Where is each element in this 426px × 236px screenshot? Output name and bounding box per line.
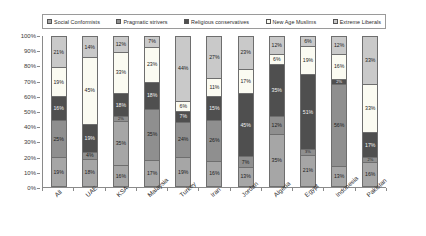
x-axis-tickmark [105, 188, 106, 191]
bar-segment-label: 3% [305, 150, 311, 154]
stacked-bar[interactable]: 27%11%15%26%16% [206, 36, 222, 187]
bar-segment-label: 13% [334, 174, 344, 179]
bar-segment[interactable]: 4% [83, 153, 97, 160]
bar-segment[interactable]: 33% [363, 37, 377, 85]
bar-column[interactable]: 33%33%17%2%16% [357, 36, 383, 187]
bar-segment[interactable]: 19% [52, 158, 66, 186]
bar-column[interactable]: 12%16%2%56%13% [326, 36, 352, 187]
bar-segment[interactable]: 24% [176, 123, 190, 159]
bar-segment[interactable]: 12% [270, 37, 284, 55]
bar-column[interactable]: 12%33%18%2%35%16% [108, 36, 134, 187]
bar-segment[interactable]: 17% [239, 70, 253, 94]
stacked-bar[interactable]: 23%17%45%7%13% [238, 36, 254, 187]
bar-segment[interactable]: 6% [270, 55, 284, 65]
bar-segment-label: 16% [116, 174, 126, 179]
bar-segment[interactable]: 19% [52, 68, 66, 97]
bar-segment[interactable]: 11% [207, 79, 221, 97]
bar-segment[interactable]: 12% [114, 37, 128, 53]
bar-segment-label: 19% [303, 58, 313, 63]
bar-segment[interactable]: 18% [114, 94, 128, 117]
bar-segment-label: 17% [147, 171, 157, 176]
bar-segment[interactable]: 27% [207, 37, 221, 79]
bar-segment[interactable]: 44% [176, 37, 190, 102]
bar-segment[interactable]: 16% [207, 162, 221, 186]
bar-segment[interactable]: 19% [83, 125, 97, 154]
bar-column[interactable]: 23%17%45%7%13% [233, 36, 259, 187]
bar-segment-label: 2% [336, 80, 342, 84]
bar-segment[interactable]: 23% [145, 48, 159, 82]
bar-segment[interactable]: 33% [363, 85, 377, 133]
bar-segment-label: 6% [273, 57, 281, 62]
y-axis-tickmark [37, 82, 40, 83]
bar-column[interactable]: 27%11%15%26%16% [201, 36, 227, 187]
bar-segment[interactable]: 6% [301, 37, 315, 47]
bar-segment[interactable]: 12% [332, 37, 346, 55]
bar-segment[interactable]: 16% [332, 55, 346, 79]
bar-segment-label: 25% [53, 137, 63, 142]
legend-item[interactable]: New Age Muslims [266, 19, 317, 25]
bar-segment-label: 18% [85, 170, 95, 175]
stacked-bar[interactable]: 7%23%18%35%17% [144, 36, 160, 187]
y-axis-tick-label: 30% [24, 139, 36, 145]
bar-segment-label: 24% [178, 137, 188, 142]
bar-segment-label: 12% [272, 43, 282, 48]
bar-segment[interactable]: 12% [270, 117, 284, 135]
bar-segment[interactable]: 45% [83, 58, 97, 124]
stacked-bar[interactable]: 21%19%16%25%19% [51, 36, 67, 187]
x-axis-tickmark [355, 188, 356, 191]
bar-segment[interactable]: 33% [114, 53, 128, 95]
bar-column[interactable]: 14%45%19%4%18% [77, 36, 103, 187]
bar-column[interactable]: 21%19%16%25%19% [46, 36, 72, 187]
bar-segment[interactable]: 17% [363, 133, 377, 158]
stacked-bar[interactable]: 12%6%35%12%35% [269, 36, 285, 187]
y-axis-tick-label: 50% [24, 109, 36, 115]
bar-segment-label: 16% [365, 172, 375, 177]
legend-item[interactable]: Extreme Liberals [333, 19, 381, 25]
bar-segment[interactable]: 51% [301, 75, 315, 150]
bar-column[interactable]: 12%6%35%12%35% [264, 36, 290, 187]
bar-segment[interactable]: 16% [114, 166, 128, 186]
legend-item[interactable]: Religious conservatives [184, 19, 249, 25]
bar-column[interactable]: 44%6%7%24%19% [170, 36, 196, 187]
stacked-bar[interactable]: 6%19%51%3%21% [300, 36, 316, 187]
bar-segment-label: 2% [118, 117, 124, 121]
bar-segment-label: 12% [272, 123, 282, 128]
bar-segment[interactable]: 6% [176, 102, 190, 112]
bar-segment[interactable]: 21% [301, 156, 315, 186]
bar-segment[interactable]: 18% [83, 160, 97, 186]
stacked-bar[interactable]: 12%33%18%2%35%16% [113, 36, 129, 187]
bar-segment[interactable]: 19% [301, 47, 315, 76]
y-axis-tickmark [37, 66, 40, 67]
y-axis-tickmark [37, 97, 40, 98]
bar-segment[interactable]: 45% [239, 94, 253, 157]
stacked-bar[interactable]: 12%16%2%56%13% [331, 36, 347, 187]
legend-item[interactable]: Social Conformists [47, 19, 100, 25]
bar-segment[interactable]: 35% [270, 135, 284, 186]
bar-segment[interactable]: 16% [52, 97, 66, 121]
bar-segment[interactable]: 26% [207, 121, 221, 162]
bar-segment[interactable]: 18% [145, 83, 159, 110]
bar-segment[interactable]: 19% [176, 158, 190, 186]
stacked-bar[interactable]: 33%33%17%2%16% [362, 36, 378, 187]
legend-swatch-icon [266, 19, 271, 24]
bar-segment[interactable]: 23% [239, 37, 253, 70]
bar-segment-label: 45% [85, 88, 95, 93]
bar-column[interactable]: 6%19%51%3%21% [295, 36, 321, 187]
bar-segment[interactable]: 14% [83, 37, 97, 58]
stacked-bar[interactable]: 14%45%19%4%18% [82, 36, 98, 187]
stacked-bar[interactable]: 44%6%7%24%19% [175, 36, 191, 187]
bar-segment[interactable]: 56% [332, 85, 346, 167]
x-axis-tickmark [73, 188, 74, 191]
bar-segment[interactable]: 35% [114, 122, 128, 166]
legend-item[interactable]: Pragmatic strivers [116, 19, 167, 25]
bar-segment[interactable]: 25% [52, 121, 66, 158]
bar-segment[interactable]: 7% [176, 112, 190, 123]
bar-segment[interactable]: 35% [270, 65, 284, 117]
bar-column[interactable]: 7%23%18%35%17% [139, 36, 165, 187]
legend-label: Pragmatic strivers [123, 19, 167, 25]
bar-segment[interactable]: 7% [145, 37, 159, 48]
bar-segment[interactable]: 35% [145, 110, 159, 162]
bar-segment[interactable]: 15% [207, 97, 221, 121]
bar-segment[interactable]: 7% [239, 157, 253, 168]
bar-segment[interactable]: 21% [52, 37, 66, 68]
